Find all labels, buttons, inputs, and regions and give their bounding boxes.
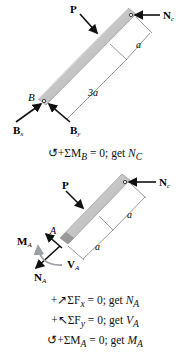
label-bx: Bx [13,124,24,138]
equation-sum-mb: ↺+ΣMB = 0; get NC [0,146,190,162]
force-p-arrow [80,14,97,33]
label-p: P [70,3,77,15]
label-nc: Nc [163,9,175,23]
label-b: B [28,91,35,103]
equation-sum-ma: ↺+ΣMA = 0; get MA [0,333,190,349]
pin-b [42,99,45,102]
pin-c [129,13,132,16]
force-bx-arrow [16,104,41,122]
equation-sum-fx: +↗ΣFx = 0; get NA [0,293,190,309]
label-ma: MA [17,235,32,249]
dimension-lines-1 [50,17,152,121]
label-p-2: P [62,179,69,191]
label-nc-2: Nc [159,176,171,190]
pin-c-2 [123,180,126,183]
label-dim-a2: a [95,241,100,252]
force-p-arrow-2 [66,191,83,208]
force-by-arrow [49,104,70,122]
label-na: NA [34,271,47,285]
label-va: VA [67,258,80,272]
member-ac [60,174,130,244]
label-dim-3a: 3a [87,87,98,98]
label-a: A [49,225,57,236]
label-dim-a1: a [127,209,132,220]
label-dim-a: a [136,39,141,50]
equation-sum-fy: +↖ΣFy = 0; get VA [0,313,190,329]
label-by: By [70,124,81,138]
